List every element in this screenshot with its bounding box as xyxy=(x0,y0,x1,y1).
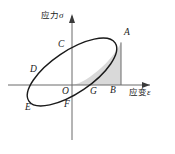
point-label-G: G xyxy=(90,87,97,97)
strain-axis-label: 应变ε xyxy=(129,88,151,97)
point-label-O: O xyxy=(62,87,69,97)
point-label-A: A xyxy=(124,28,130,38)
stress-axis-arrow-icon xyxy=(69,14,75,23)
strain-axis-label-symbol: ε xyxy=(147,87,151,97)
stress-axis-label: 应力σ xyxy=(41,11,63,20)
point-label-E: E xyxy=(25,103,31,113)
shaded-area-OAB xyxy=(72,42,121,85)
point-label-F: F xyxy=(64,100,70,110)
stress-strain-diagram: A C D E F O G B 应力σ 应变ε xyxy=(0,0,175,154)
point-label-B: B xyxy=(110,86,116,96)
stress-axis-label-symbol: σ xyxy=(59,10,63,20)
diagram-canvas xyxy=(0,0,175,154)
point-label-D: D xyxy=(30,65,37,75)
point-label-C: C xyxy=(58,40,64,50)
strain-axis-label-cn: 应变 xyxy=(129,87,147,97)
stress-axis-label-cn: 应力 xyxy=(41,10,59,20)
